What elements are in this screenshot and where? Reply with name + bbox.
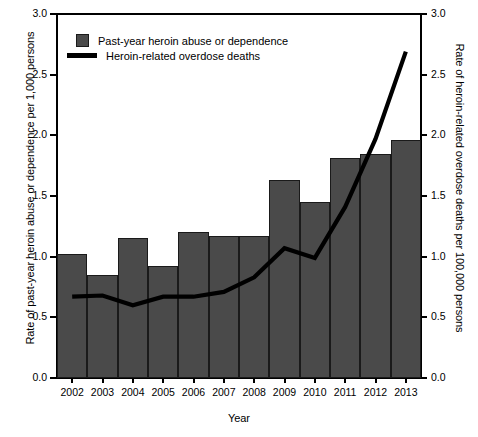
chart-legend: Past-year heroin abuse or dependence Her… [76,33,288,63]
chart-figure: Rate of past-year heroin abuse or depend… [0,0,478,437]
y-tick-right [421,74,427,76]
y-tick-right [421,316,427,318]
y-tick-left [50,256,56,258]
y-tick-label-right: 2.5 [431,69,446,79]
y-tick-left [50,377,56,379]
y-tick-label-left: 2.0 [32,129,47,139]
y-tick-label-left: 1.5 [32,190,47,200]
y-tick-right [421,13,427,15]
legend-label-line: Heroin-related overdose deaths [106,50,260,62]
y-tick-label-right: 3.0 [431,8,446,18]
y-tick-right [421,256,427,258]
y-tick-right [421,134,427,136]
y-tick-left [50,13,56,15]
y-tick-label-left: 1.0 [32,251,47,261]
x-tick [71,378,73,383]
y-tick-label-left: 2.5 [32,69,47,79]
x-tick [102,378,104,383]
legend-label-bars: Past-year heroin abuse or dependence [98,35,288,47]
x-tick [375,378,377,383]
y-tick-label-left: 0.5 [32,311,47,321]
x-axis-title: Year [0,412,478,424]
x-tick [314,378,316,383]
y-tick-label-right: 1.0 [431,251,446,261]
x-tick [405,378,407,383]
y-axis-right-title: Rate of heroin-related overdose deaths p… [454,18,466,358]
y-tick-left [50,316,56,318]
y-tick-label-left: 3.0 [32,8,47,18]
x-tick [162,378,164,383]
legend-item-bars: Past-year heroin abuse or dependence [76,33,288,48]
y-tick-label-left: 0.0 [32,372,47,382]
y-tick-left [50,134,56,136]
y-tick-right [421,195,427,197]
x-tick [193,378,195,383]
y-tick-label-right: 1.5 [431,190,446,200]
line-series [57,14,421,378]
legend-item-line: Heroin-related overdose deaths [76,48,288,63]
y-tick-label-right: 0.0 [431,372,446,382]
legend-line-icon [67,53,97,58]
x-tick [284,378,286,383]
x-tick [132,378,134,383]
x-tick [253,378,255,383]
plot-area: 0.00.51.01.52.02.53.0 0.00.51.01.52.02.5… [57,14,421,378]
y-tick-left [50,74,56,76]
x-tick [223,378,225,383]
x-tick-label: 2013 [386,386,426,398]
y-tick-label-right: 0.5 [431,311,446,321]
legend-swatch-icon [76,34,89,47]
x-tick [344,378,346,383]
y-tick-right [421,377,427,379]
y-tick-label-right: 2.0 [431,129,446,139]
y-tick-left [50,195,56,197]
